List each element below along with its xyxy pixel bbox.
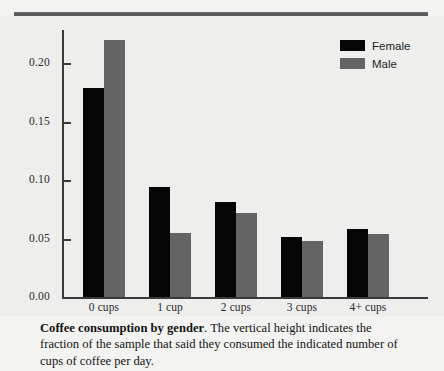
bar-female-0-cups	[83, 88, 104, 297]
caption-title: Coffee consumption by gender	[40, 321, 204, 335]
x-axis-label: 0 cups	[89, 301, 119, 313]
bar-female-2-cups	[215, 202, 236, 297]
legend-label-female: Female	[372, 40, 410, 52]
x-axis-label: 3 cups	[287, 301, 317, 313]
legend-label-male: Male	[372, 58, 397, 70]
bar-male-3-cups	[302, 241, 323, 297]
bar-female-1-cup	[149, 187, 170, 297]
bar-female-4-cups	[347, 229, 368, 297]
bar-male-4-cups	[368, 234, 389, 297]
bar-female-3-cups	[281, 237, 302, 297]
legend-swatch-female-icon	[340, 40, 365, 51]
figure-caption: Coffee consumption by gender. The vertic…	[40, 320, 410, 369]
x-axis-label: 4+ cups	[350, 301, 387, 313]
x-axis-labels: 0 cups1 cup2 cups3 cups4+ cups	[0, 301, 444, 319]
bar-male-2-cups	[236, 213, 257, 297]
legend-item-male: Male	[340, 56, 436, 71]
x-axis-label: 1 cup	[157, 301, 183, 313]
x-axis-label: 2 cups	[221, 301, 251, 313]
legend-swatch-male-icon	[340, 58, 365, 69]
chart-figure: 0.000.050.100.150.20 0 cups1 cup2 cups3 …	[0, 16, 444, 316]
legend-item-female: Female	[340, 38, 436, 53]
bar-male-0-cups	[104, 40, 125, 297]
bar-male-1-cup	[170, 233, 191, 297]
chart-legend: Female Male	[340, 38, 436, 74]
